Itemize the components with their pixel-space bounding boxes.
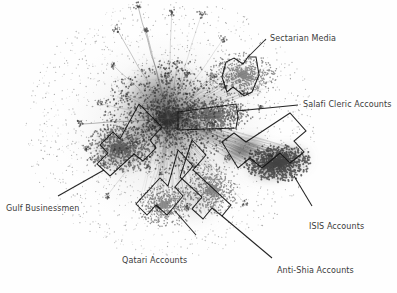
label-sectarian-media: Sectarian Media — [270, 34, 336, 43]
leader-line-qatari-accounts — [175, 211, 196, 235]
bracket-salafi-cleric-accounts — [178, 104, 238, 130]
leader-line-isis-accounts — [294, 176, 312, 206]
label-isis-accounts: ISIS Accounts — [309, 222, 364, 231]
annotation-overlay — [0, 0, 397, 293]
label-salafi-cleric-accounts: Salafi Cleric Accounts — [303, 100, 392, 109]
leader-line-anti-shia-accounts — [222, 216, 272, 258]
figure-canvas: Sectarian Media Salafi Cleric Accounts G… — [0, 0, 397, 293]
label-qatari-accounts: Qatari Accounts — [122, 256, 187, 265]
bracket-gulf-businessmen — [97, 104, 162, 176]
leader-line-salafi-cleric-accounts — [237, 105, 298, 111]
leader-line-gulf-businessmen — [58, 170, 104, 196]
bracket-isis-accounts — [222, 113, 306, 168]
bracket-anti-shia-accounts — [180, 140, 231, 219]
leader-line-sectarian-media — [248, 39, 266, 57]
label-gulf-businessmen: Gulf Businessmen — [6, 204, 80, 213]
bracket-sectarian-media — [222, 57, 259, 96]
label-anti-shia-accounts: Anti-Shia Accounts — [277, 266, 354, 275]
